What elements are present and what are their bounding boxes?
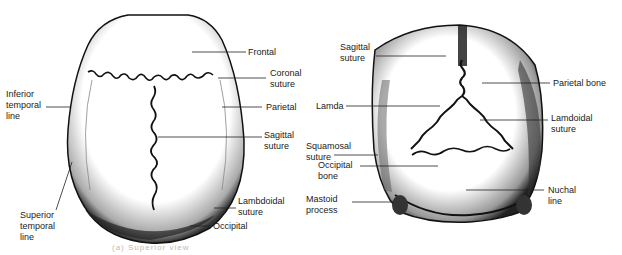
superior-skull-outline <box>67 15 244 243</box>
label-occipital: Occipital <box>213 221 248 232</box>
label-nuchal-line: Nuchal line <box>548 185 576 207</box>
label-coronal-suture: Coronal suture <box>270 68 302 90</box>
label-lamdoidal-suture: Lamdoidal suture <box>551 113 593 135</box>
label-parietal-bone: Parietal bone <box>553 78 606 89</box>
label-sagittal-suture-left: Sagittal suture <box>264 130 294 152</box>
skull-diagram-drawing <box>0 0 622 255</box>
label-mastoid-process: Mastoid process <box>306 194 338 216</box>
label-parietal: Parietal <box>266 102 297 113</box>
label-sagittal-suture-right: Sagittal suture <box>340 42 370 64</box>
label-lambdoidal-suture: Lambdoidal suture <box>238 196 285 218</box>
posterior-skull-outline <box>372 25 542 222</box>
label-superior-temporal-line: Superior temporal line <box>20 210 55 243</box>
figure-caption: (a) Superior view <box>112 243 189 252</box>
label-occipital-bone: Occipital bone <box>318 160 353 182</box>
label-lamda: Lamda <box>316 101 344 112</box>
label-frontal: Frontal <box>248 47 276 58</box>
label-inferior-temporal-line: Inferior temporal line <box>6 89 41 122</box>
